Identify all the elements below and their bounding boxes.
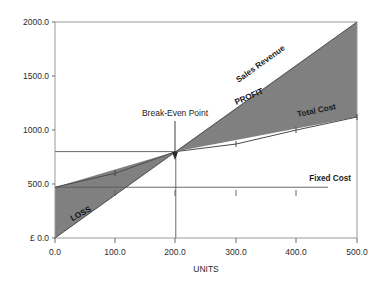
y-axis-tick-label: 1000.0 [23, 125, 49, 135]
y-axis-tick-label: £ 0.0 [30, 233, 49, 243]
x-axis-tick-label: 500.0 [346, 247, 368, 257]
break-even-point-label: Break-Even Point [142, 108, 209, 118]
break-even-chart: £ 0.0 500.0 1000.0 1500.0 2000.0 0.0 100… [0, 0, 390, 289]
x-axis-tick-label: 400.0 [285, 247, 307, 257]
x-axis-tick-label: 300.0 [225, 247, 247, 257]
chart-container: £ 0.0 500.0 1000.0 1500.0 2000.0 0.0 100… [0, 0, 390, 289]
x-axis-title: UNITS [193, 264, 219, 274]
x-axis-tick-label: 100.0 [104, 247, 126, 257]
x-axis-tick-label: 200.0 [164, 247, 186, 257]
x-axis-tick-label: 0.0 [49, 247, 61, 257]
fixed-cost-label: Fixed Cost [309, 174, 351, 183]
y-axis-tick-label: 1500.0 [23, 71, 49, 81]
y-axis-tick-label: 500.0 [28, 179, 50, 189]
y-axis-tick-label: 2000.0 [23, 17, 49, 27]
